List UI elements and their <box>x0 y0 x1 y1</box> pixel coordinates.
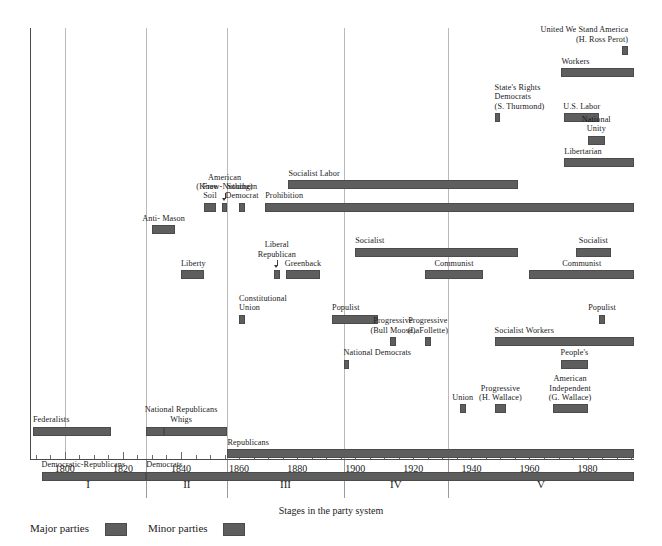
legend-swatch-major-parties <box>105 523 127 536</box>
tick-1820 <box>123 452 124 459</box>
bar-democrats[interactable] <box>146 472 634 481</box>
bar-progressive-h-wallace[interactable] <box>495 404 507 413</box>
chart-legend: Major partiesMinor parties <box>0 513 662 546</box>
tick-1850 <box>210 455 211 459</box>
tick-1815 <box>108 455 109 459</box>
bar-people-s[interactable] <box>561 360 587 369</box>
bar-label-workers: Workers <box>561 57 589 66</box>
bar-liberty[interactable] <box>181 270 204 279</box>
tick-1840 <box>181 452 182 459</box>
bar-whigs[interactable] <box>164 427 228 436</box>
bar-label-socialist: Socialist <box>355 236 384 245</box>
bar-label-federalists: Federalists <box>33 415 70 424</box>
bar-populist[interactable] <box>599 315 605 324</box>
bar-federalists[interactable] <box>33 427 111 436</box>
legend-swatch-minor-parties <box>223 523 245 536</box>
bar-national-unity[interactable] <box>588 136 605 145</box>
bar-united-we-stand-america-h-ross-perot[interactable] <box>622 46 628 55</box>
gridline-1896 <box>344 28 345 459</box>
tick-1805 <box>79 455 80 459</box>
gridline-1800 <box>65 28 66 459</box>
bar-anti-mason[interactable] <box>152 225 175 234</box>
bar-communist[interactable] <box>425 270 483 279</box>
bar-communist[interactable] <box>529 270 634 279</box>
bar-workers[interactable] <box>561 68 634 77</box>
tick-1835 <box>166 455 167 459</box>
bar-label-national-unity: National Unity <box>536 115 656 134</box>
bar-prohibition[interactable] <box>265 203 634 212</box>
bar-democratic-republicans[interactable] <box>42 472 147 481</box>
tick-1800 <box>65 452 66 459</box>
bar-label-socialist-labor: Socialist Labor <box>288 169 339 178</box>
bar-label-united-we-stand-america-h-ross-perot: United We Stand America (H. Ross Perot) <box>508 25 628 44</box>
bar-label-u-s-labor: U.S. Labor <box>522 102 642 111</box>
bar-american-independent-g-wallace[interactable] <box>553 404 588 413</box>
bar-progressive-bull-moose[interactable] <box>390 337 396 346</box>
tick-1845 <box>196 455 197 459</box>
bar-label-greenback: Greenback <box>243 259 363 268</box>
bar-progressive-lafollette[interactable] <box>425 337 431 346</box>
party-system-timeline-chart: 1800182018401860188019001920194019601980… <box>0 0 662 546</box>
bar-label-populist: Populist <box>542 303 662 312</box>
legend-label-minor-parties: Minor parties <box>148 522 208 534</box>
bar-label-communist: Communist <box>522 259 642 268</box>
bar-libertarian[interactable] <box>564 158 634 167</box>
bar-socialist-labor[interactable] <box>288 180 517 189</box>
bar-free-soil[interactable] <box>204 203 216 212</box>
bar-label-liberty: Liberty <box>181 259 206 268</box>
axis-frame-left <box>30 28 31 459</box>
bar-label-communist: Communist <box>394 259 514 268</box>
tick-1795 <box>50 455 51 459</box>
bar-label-whigs: Whigs <box>126 415 236 424</box>
tick-1830 <box>152 455 153 459</box>
bar-label-people-s: People's <box>514 348 634 357</box>
tick-1790 <box>36 455 37 459</box>
bar-label-socialist-workers: Socialist Workers <box>495 326 554 335</box>
bar-state-s-rights-democrats-s-thurmond[interactable] <box>495 113 501 122</box>
plot-area: 1800182018401860188019001920194019601980… <box>0 0 662 546</box>
gridline-1828 <box>146 28 147 459</box>
bar-greenback[interactable] <box>286 270 321 279</box>
bar-socialist[interactable] <box>355 248 518 257</box>
bar-label-liberal-republican: Liberal Republican <box>217 240 337 259</box>
legend-label-major-parties: Major parties <box>30 522 89 534</box>
bar-label-democratic-republicans: Democratic-Republicans <box>42 460 126 469</box>
bar-label-american-independent-g-wallace: American Independent (G. Wallace) <box>510 374 630 402</box>
bar-union[interactable] <box>460 404 466 413</box>
bar-socialist-workers[interactable] <box>495 337 634 346</box>
bar-label-anti-mason: Anti- Mason <box>104 214 224 223</box>
bar-american-know-nothing[interactable] <box>222 203 228 212</box>
bar-republicans[interactable] <box>227 449 634 458</box>
tick-1810 <box>94 455 95 459</box>
bar-socialist[interactable] <box>576 248 611 257</box>
bar-label-socialist: Socialist <box>533 236 653 245</box>
bar-label-republicans: Republicans <box>227 438 269 447</box>
bar-southern-democrat[interactable] <box>239 203 245 212</box>
bar-liberal-republican[interactable] <box>274 270 280 279</box>
bar-label-democrats: Democrats <box>146 460 182 469</box>
bar-label-constitutional-union: Constitutional Union <box>239 294 287 313</box>
bar-constitutional-union[interactable] <box>239 315 245 324</box>
tick-1825 <box>137 455 138 459</box>
bar-label-progressive-lafollette: Progressive (LaFollette) <box>368 316 488 335</box>
bar-national-democrats[interactable] <box>344 360 350 369</box>
bar-label-national-democrats: National Democrats <box>344 348 412 357</box>
bar-label-libertarian: Libertarian <box>564 147 601 156</box>
bar-label-populist: Populist <box>332 303 360 312</box>
bar-label-prohibition: Prohibition <box>265 191 303 200</box>
bar-label-national-republicans: National Republicans <box>126 405 236 414</box>
bar-national-republicans[interactable] <box>146 427 163 436</box>
tick-1855 <box>225 455 226 459</box>
